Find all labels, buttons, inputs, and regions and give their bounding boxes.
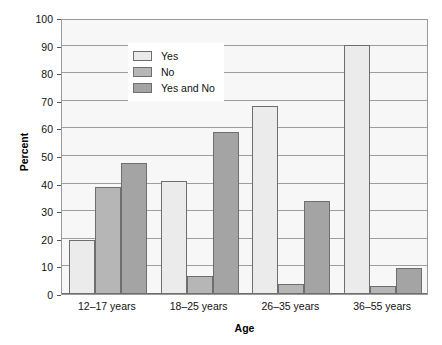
bars-layer — [62, 20, 427, 294]
y-axis-title: Percent — [18, 112, 30, 192]
x-tick-label: 26–35 years — [245, 300, 337, 318]
x-tick-label: 12–17 years — [61, 300, 153, 318]
x-axis-title: Age — [61, 322, 428, 334]
y-tick-label: 30 — [41, 207, 53, 218]
bar — [252, 106, 278, 295]
y-tick-label: 50 — [41, 152, 53, 163]
x-axis: 12–17 years18–25 years26–35 years36–55 y… — [61, 300, 428, 318]
bar-chart: 0102030405060708090100 Percent YesNoYes … — [0, 0, 442, 345]
legend: YesNoYes and No — [128, 43, 224, 101]
legend-swatch — [133, 51, 152, 61]
bar — [370, 286, 396, 294]
y-tick-label: 100 — [35, 14, 53, 25]
legend-label: No — [161, 67, 174, 78]
legend-swatch — [133, 67, 152, 77]
legend-label: Yes and No — [161, 83, 215, 94]
y-tick-label: 60 — [41, 124, 53, 135]
bar — [187, 276, 213, 294]
y-tick-label: 80 — [41, 69, 53, 80]
legend-item: Yes — [133, 48, 215, 64]
y-tick-mark — [57, 295, 61, 296]
y-tick-label: 20 — [41, 235, 53, 246]
bar — [69, 240, 95, 294]
y-tick-label: 70 — [41, 97, 53, 108]
bar — [161, 181, 187, 294]
bar-group — [337, 20, 429, 294]
y-tick-label: 90 — [41, 41, 53, 52]
legend-swatch — [133, 83, 152, 93]
legend-item: No — [133, 64, 215, 80]
legend-label: Yes — [161, 51, 178, 62]
y-tick-label: 0 — [47, 290, 53, 301]
bar — [344, 45, 370, 294]
bar — [396, 268, 422, 294]
y-axis: 0102030405060708090100 — [0, 0, 61, 345]
legend-item: Yes and No — [133, 80, 215, 96]
plot-area: YesNoYes and No — [61, 19, 428, 295]
y-tick-label: 10 — [41, 262, 53, 273]
x-tick-label: 18–25 years — [153, 300, 245, 318]
bar — [213, 132, 239, 294]
bar — [278, 284, 304, 294]
bar-group — [246, 20, 338, 294]
y-tick-label: 40 — [41, 179, 53, 190]
bar — [121, 163, 147, 294]
x-tick-label: 36–55 years — [336, 300, 428, 318]
bar — [304, 201, 330, 294]
bar — [95, 187, 121, 294]
